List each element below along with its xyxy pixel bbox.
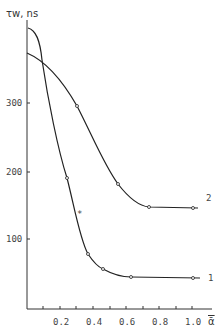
x-axis: 0.2 0.4 0.6 0.8 1.0 ᾱ [27,306,215,327]
x-tick-label: 0.2 [53,317,69,327]
y-axis-label: τw, ns [6,8,38,19]
series-2-markers [76,105,195,210]
series-1-markers [66,177,195,280]
y-axis: 300 200 100 τw, ns [6,8,38,309]
chart: 300 200 100 τw, ns 0.2 0.4 0.6 0.8 1.0 ᾱ… [0,0,222,334]
y-tick-label: 300 [6,98,22,108]
series-2-curve [27,53,198,208]
x-tick-label: 0.8 [152,317,168,327]
series-2-label: 2 [206,193,211,203]
series-1-label: 1 [208,273,213,283]
series-1-curve [28,28,200,278]
x-axis-label: ᾱ [208,316,215,327]
y-tick-label: 100 [6,234,22,244]
annotation-star: * [77,209,82,219]
x-tick-label: 1.0 [185,317,201,327]
x-tick-label: 0.6 [119,317,135,327]
y-tick-label: 200 [6,167,22,177]
x-tick-label: 0.4 [86,317,102,327]
